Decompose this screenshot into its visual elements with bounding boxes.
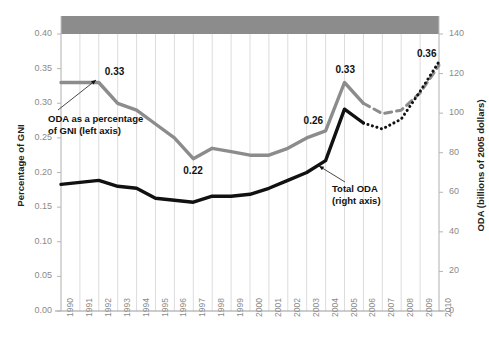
chart-figure: Percentage of GNI ODA (billions of 2005 … <box>0 0 489 347</box>
annotation-oda-percentage: ODA as a percentageof GNI (left axis) <box>48 113 143 137</box>
annotation-total-oda-line-1: Total ODA <box>332 183 381 195</box>
plot-canvas <box>0 0 489 347</box>
annotation-oda-percentage-line-2: of GNI (left axis) <box>48 125 143 137</box>
annotation-total-oda: Total ODA(right axis) <box>332 183 381 207</box>
annotation-oda-percentage-line-1: ODA as a percentage <box>48 113 143 125</box>
data-label-1992: 0.33 <box>105 66 124 77</box>
annotation-total-oda-line-2: (right axis) <box>332 195 381 207</box>
data-label-2010: 0.36 <box>417 48 436 59</box>
data-label-2004: 0.26 <box>304 115 323 126</box>
data-label-2005: 0.33 <box>336 64 355 75</box>
data-label-1997: 0.22 <box>183 165 202 176</box>
